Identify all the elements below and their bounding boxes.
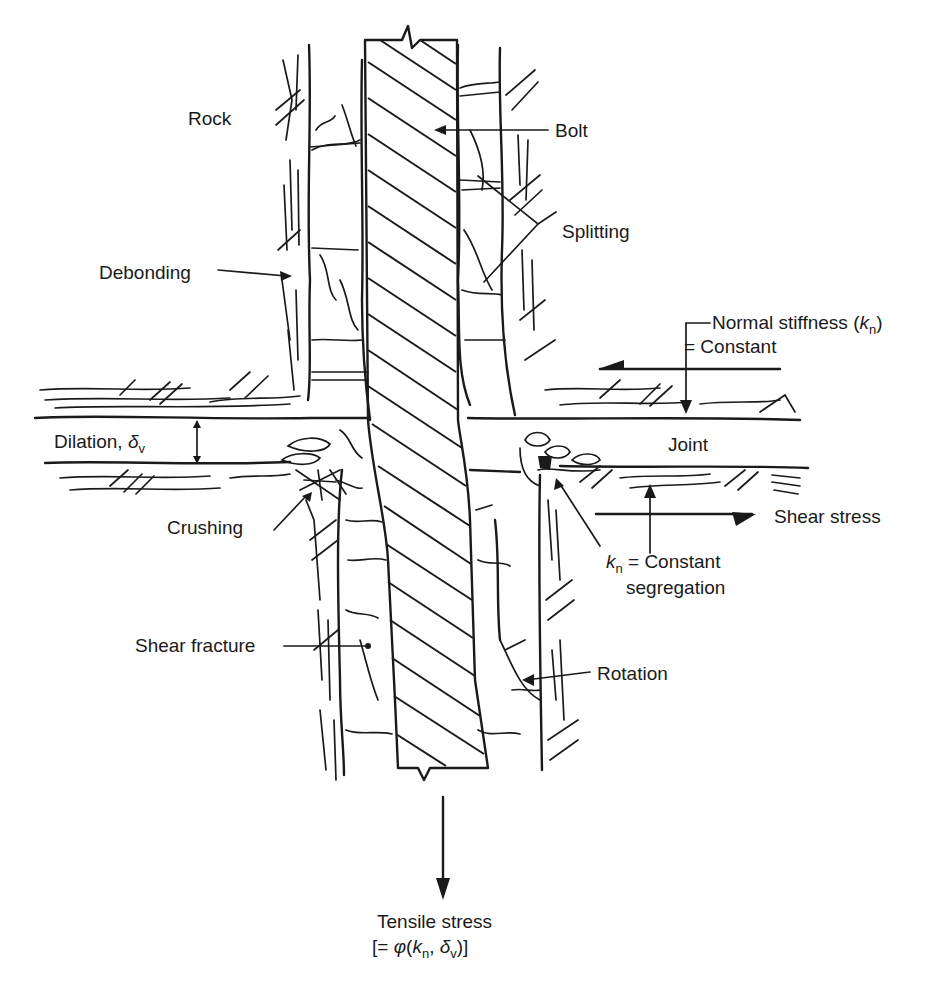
dilation-symbol: δ bbox=[128, 431, 139, 452]
label-debonding: Debonding bbox=[99, 262, 191, 284]
label-bolt: Bolt bbox=[555, 120, 588, 142]
label-rotation: Rotation bbox=[597, 663, 668, 685]
upper-rock-right bbox=[458, 45, 555, 415]
kn-rest: = Constant bbox=[623, 551, 721, 572]
tensile-open: [= bbox=[372, 936, 394, 957]
label-crushing: Crushing bbox=[167, 517, 243, 539]
upper-rock-column bbox=[276, 45, 370, 420]
lower-rock-right bbox=[470, 470, 578, 770]
label-splitting: Splitting bbox=[562, 221, 630, 243]
label-dilation: Dilation, δv bbox=[54, 431, 145, 460]
kn-k: k bbox=[606, 551, 616, 572]
normal-stiffness-k: k bbox=[859, 312, 869, 333]
tensile-phi: φ bbox=[394, 936, 406, 957]
tensile-delta: δ bbox=[440, 936, 451, 957]
crushed-fragments-right bbox=[520, 433, 600, 487]
tensile-comma: , bbox=[429, 936, 440, 957]
normal-stiffness-text: Normal stiffness ( bbox=[712, 312, 859, 333]
label-shear-stress: Shear stress bbox=[774, 506, 881, 528]
dilation-text: Dilation, bbox=[54, 431, 128, 452]
dilation-sub: v bbox=[138, 441, 145, 456]
rock-bolt-diagram bbox=[0, 0, 926, 999]
tensile-k: k bbox=[412, 936, 422, 957]
annotation-arrows bbox=[193, 125, 780, 900]
label-segregation: segregation bbox=[626, 577, 725, 599]
label-rock: Rock bbox=[188, 108, 231, 130]
crushed-fragments-left bbox=[282, 430, 362, 502]
tensile-close: )] bbox=[457, 936, 469, 957]
lower-rock-left bbox=[306, 470, 392, 780]
label-tensile-formula: [= φ(kn, δv)] bbox=[372, 936, 468, 965]
normal-stiffness-close: ) bbox=[876, 312, 882, 333]
label-tensile-stress: Tensile stress bbox=[377, 911, 492, 933]
label-joint: Joint bbox=[668, 434, 708, 456]
lower-joint-surface bbox=[45, 462, 808, 494]
label-normal-stiffness-constant: = Constant bbox=[684, 336, 776, 358]
label-kn-constant: kn = Constant bbox=[606, 551, 720, 580]
label-shear-fracture: Shear fracture bbox=[135, 635, 255, 657]
kn-sub: n bbox=[616, 561, 623, 576]
